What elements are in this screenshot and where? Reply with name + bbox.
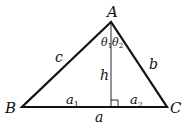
side-c-label: c: [55, 49, 63, 65]
side-a-label: a: [95, 109, 103, 125]
triangle-abc: [22, 22, 167, 107]
angle-theta1-label: θ1: [101, 36, 112, 50]
segment-a2-label: a2: [130, 92, 143, 109]
segment-a1-label: a1: [66, 92, 79, 109]
altitude-h-label: h: [100, 67, 109, 83]
triangle-diagram: A B C c b a h a1 a2 θ1 θ2: [0, 0, 190, 131]
side-b-label: b: [149, 56, 158, 72]
vertex-c-label: C: [170, 99, 182, 117]
vertex-a-label: A: [105, 3, 118, 21]
vertex-b-label: B: [4, 99, 16, 117]
